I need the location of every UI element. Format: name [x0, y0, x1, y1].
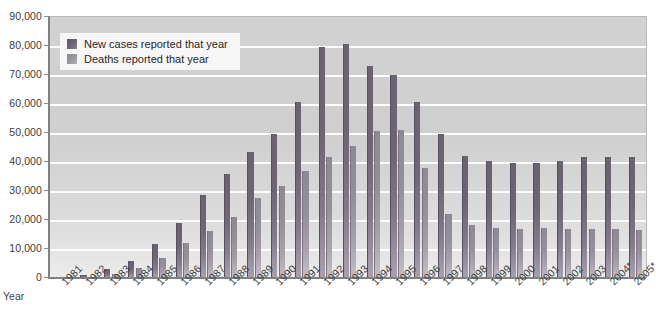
bar [605, 157, 611, 278]
x-axis-tick-mark [181, 277, 182, 281]
x-axis-tick-mark [443, 277, 444, 281]
x-axis-tick-mark [348, 277, 349, 281]
x-axis-tick-mark [300, 277, 301, 281]
chart-legend: New cases reported that yearDeaths repor… [60, 33, 240, 70]
bar [326, 157, 332, 278]
x-axis-tick-mark [86, 277, 87, 281]
x-axis-tick-mark [491, 277, 492, 281]
x-axis-tick-mark [110, 277, 111, 281]
bar [319, 47, 325, 278]
x-axis-tick-mark [539, 277, 540, 281]
bar [557, 161, 563, 278]
y-axis-tick-mark [44, 16, 49, 17]
bar [462, 156, 468, 278]
y-axis-tick-label: 90,000 [9, 10, 42, 22]
y-axis-tick-label: 50,000 [9, 126, 42, 138]
bar-chart: 90,00080,00070,00060,00050,00040,00030,0… [0, 0, 656, 330]
x-axis-tick-mark [586, 277, 587, 281]
bar [350, 146, 356, 278]
bar [390, 75, 396, 278]
x-axis-tick-mark [133, 277, 134, 281]
bar [271, 134, 277, 278]
x-axis-tick-mark [324, 277, 325, 281]
x-axis-tick-mark [253, 277, 254, 281]
y-axis-tick-mark [44, 190, 49, 191]
y-axis-tick-mark [44, 45, 49, 46]
x-axis-tick-mark [420, 277, 421, 281]
y-axis-tick-label: 70,000 [9, 68, 42, 80]
y-axis-tick-label: 60,000 [9, 97, 42, 109]
x-axis-tick-mark [515, 277, 516, 281]
bar [200, 195, 206, 278]
x-axis-tick-mark [276, 277, 277, 281]
x-axis-tick-mark [372, 277, 373, 281]
x-axis-tick-mark [467, 277, 468, 281]
legend-label: Deaths reported that year [84, 53, 209, 65]
x-axis-tick-mark [205, 277, 206, 281]
bar [398, 130, 404, 278]
y-axis-tick-mark [44, 161, 49, 162]
y-axis-tick-mark [44, 248, 49, 249]
x-axis-tick-mark [229, 277, 230, 281]
y-axis-tick-label: 40,000 [9, 155, 42, 167]
x-axis-tick-mark [634, 277, 635, 281]
bar [247, 152, 253, 278]
y-axis-tick-mark [44, 132, 49, 133]
x-axis-tick-mark [563, 277, 564, 281]
bar [295, 102, 301, 278]
x-axis-labels: 1981198219831984198519861987198819891990… [0, 279, 656, 330]
bar [581, 157, 587, 278]
legend-item: New cases reported that year [67, 38, 228, 50]
bar [255, 198, 261, 278]
y-axis-tick-label: 30,000 [9, 184, 42, 196]
bar [279, 186, 285, 278]
legend-swatch-icon [67, 54, 77, 64]
x-axis-tick-mark [610, 277, 611, 281]
bar [414, 102, 420, 278]
bar [224, 174, 230, 278]
x-axis-title: Year [3, 290, 24, 302]
legend-item: Deaths reported that year [67, 53, 228, 65]
bar [438, 134, 444, 278]
y-axis-tick-mark [44, 74, 49, 75]
bar [343, 44, 349, 278]
bar [367, 66, 373, 278]
bar [374, 131, 380, 278]
x-axis-tick-mark [62, 277, 63, 281]
x-axis-tick-mark [396, 277, 397, 281]
bar [486, 161, 492, 278]
bar [422, 168, 428, 278]
bar [629, 157, 635, 278]
y-axis-tick-mark [44, 219, 49, 220]
legend-swatch-icon [67, 39, 77, 49]
y-axis-tick-mark [44, 103, 49, 104]
y-axis-tick-mark [44, 277, 49, 278]
y-axis-tick-label: 10,000 [9, 242, 42, 254]
bar [510, 163, 516, 278]
bar [533, 163, 539, 278]
x-axis-tick-mark [157, 277, 158, 281]
y-axis-tick-label: 80,000 [9, 39, 42, 51]
y-axis-tick-label: 20,000 [9, 213, 42, 225]
legend-label: New cases reported that year [84, 38, 228, 50]
bar [302, 171, 308, 278]
